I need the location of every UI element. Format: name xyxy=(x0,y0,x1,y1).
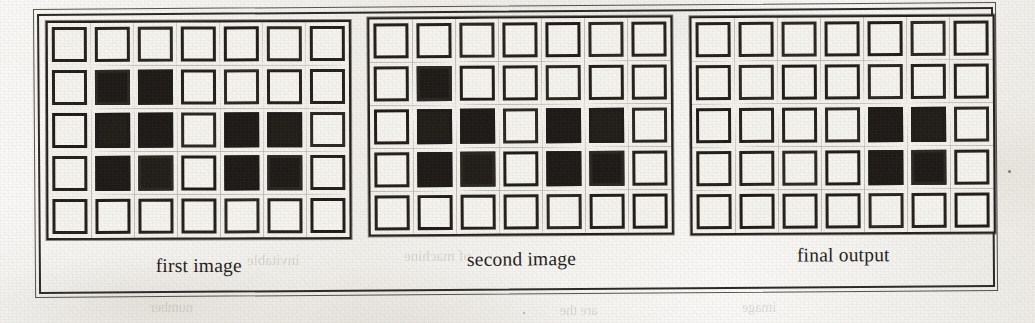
grid-cell-ring xyxy=(696,194,731,229)
grid-cell xyxy=(498,18,541,61)
grid-cell xyxy=(306,151,349,194)
grid-cell xyxy=(499,147,542,190)
grid-cell xyxy=(950,102,993,145)
grid-cell-ring xyxy=(460,152,495,187)
grid-cell xyxy=(820,17,863,60)
grid-cell xyxy=(821,103,864,146)
grid-cell-ring xyxy=(181,198,216,233)
grid-cell xyxy=(370,148,413,191)
grid-cell xyxy=(134,109,177,152)
grid-cell xyxy=(306,108,349,151)
grid-cell xyxy=(177,65,220,108)
grid-cell xyxy=(306,65,349,108)
grid-cell-ring xyxy=(911,150,946,185)
grid-cell xyxy=(629,189,672,232)
grid-cell-ring xyxy=(868,150,903,185)
grid-cell-ring xyxy=(267,69,302,104)
grid-cell xyxy=(778,146,821,189)
grid-cell xyxy=(907,146,950,189)
grid-cell-ring xyxy=(590,194,625,229)
grid-cell xyxy=(906,17,949,60)
grid-cell xyxy=(370,62,413,105)
grid-cell-ring xyxy=(181,155,216,190)
grid-cell xyxy=(306,194,349,237)
grid-final-output xyxy=(689,14,995,235)
grid-cell-ring xyxy=(911,64,946,99)
grid-cell xyxy=(864,103,907,146)
grid-cell xyxy=(371,191,414,234)
grid-cell-ring xyxy=(911,107,946,142)
grid-cell-ring xyxy=(502,22,537,57)
grid-cell-ring xyxy=(868,64,903,99)
grid-cell xyxy=(134,152,177,195)
grid-cell-ring xyxy=(868,107,903,142)
grid-cell-ring xyxy=(417,66,452,101)
grid-cell-ring xyxy=(181,112,216,147)
grid-cell xyxy=(48,195,91,238)
grid-cell xyxy=(91,109,134,152)
grid-cell xyxy=(177,108,220,151)
grid-cell-ring xyxy=(633,193,668,228)
grid-cell xyxy=(370,105,413,148)
grid-cell-ring xyxy=(374,66,409,101)
grid-cell-ring xyxy=(696,151,731,186)
grid-cell xyxy=(586,190,629,233)
panel-first-image: first image xyxy=(46,20,352,278)
grid-cell-ring xyxy=(696,108,731,143)
grid-cell-ring xyxy=(267,112,302,147)
grid-cell xyxy=(91,195,134,238)
grid-cell-ring xyxy=(503,65,538,100)
grid-cell-ring xyxy=(95,113,130,148)
grid-cell xyxy=(412,19,455,62)
grid-cell xyxy=(413,148,456,191)
grid-cell-ring xyxy=(95,156,130,191)
grid-cell xyxy=(907,103,950,146)
grid-cell xyxy=(585,147,628,190)
grid-cell xyxy=(220,194,263,237)
grid-cell-ring xyxy=(739,194,774,229)
grid-cell-ring xyxy=(267,155,302,190)
grid-cell-ring xyxy=(632,64,667,99)
grid-cell xyxy=(821,189,864,232)
grid-cell-ring xyxy=(546,108,581,143)
grid-cell-ring xyxy=(460,109,495,144)
grid-cell xyxy=(456,148,499,191)
grid-cell xyxy=(413,105,456,148)
grid-cell xyxy=(134,66,177,109)
grid-cell-ring xyxy=(52,27,87,62)
grid-cell xyxy=(585,61,628,104)
grid-cell-ring xyxy=(546,65,581,100)
grid-cell xyxy=(735,104,778,147)
grid-cell-ring xyxy=(224,198,259,233)
grid-cell xyxy=(949,16,992,59)
panel-second-image: second image xyxy=(367,15,674,274)
caption-first-image: first image xyxy=(156,256,242,278)
grid-cell-ring xyxy=(310,112,345,147)
grid-cell xyxy=(542,61,585,104)
grid-cell xyxy=(499,61,542,104)
grid-cell-ring xyxy=(418,195,453,230)
grid-cell xyxy=(48,23,91,66)
grid-cell xyxy=(864,60,907,103)
figure-page: invitableof machinenumberare theimage fi… xyxy=(0,0,1035,323)
grid-cell xyxy=(91,152,134,195)
grid-cell-ring xyxy=(52,113,87,148)
grid-cell xyxy=(457,191,500,234)
grid-cell-ring xyxy=(375,195,410,230)
grid-cell-ring xyxy=(503,108,538,143)
grid-cell-ring xyxy=(696,65,731,100)
grid-cell xyxy=(692,190,735,233)
grid-cell-ring xyxy=(267,26,302,61)
grid-cell xyxy=(584,18,627,61)
grid-cell-ring xyxy=(267,198,302,233)
grid-cell-ring xyxy=(782,64,817,99)
grid-cell-ring xyxy=(782,107,817,142)
grid-cell-ring xyxy=(52,156,87,191)
grid-cell-ring xyxy=(825,193,860,228)
grid-cell-ring xyxy=(138,199,173,234)
grid-cell xyxy=(585,104,628,147)
grid-cell xyxy=(220,22,263,65)
grid-cell xyxy=(692,104,735,147)
grid-cell xyxy=(735,61,778,104)
grid-cell-ring xyxy=(373,23,408,58)
